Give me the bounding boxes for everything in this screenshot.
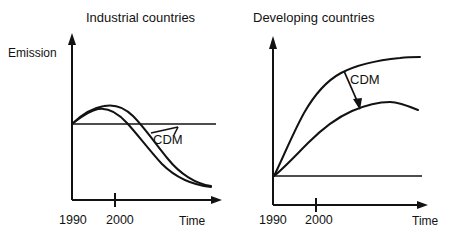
chart-drawing-industrial xyxy=(0,0,240,240)
cdm-leader-line xyxy=(344,71,358,103)
x-axis-developing xyxy=(273,201,428,209)
cdm-leader-line xyxy=(151,127,178,133)
x-axis-industrial xyxy=(72,196,222,204)
chart-panel-industrial: Industrial countries Emission Time 1990 … xyxy=(0,0,240,240)
curve-baseline-industrial xyxy=(72,105,211,186)
chart-panel-developing: Developing countries Time 1990 2000 CDM xyxy=(240,0,450,240)
figure-root: Industrial countries Emission Time 1990 … xyxy=(0,0,450,240)
curve-baseline-developing xyxy=(274,57,420,176)
curve-with-cdm-developing xyxy=(274,102,418,176)
y-axis-industrial xyxy=(68,33,76,200)
chart-drawing-developing xyxy=(240,0,450,240)
curve-with-cdm-industrial xyxy=(72,109,211,187)
y-axis-developing xyxy=(269,36,277,205)
